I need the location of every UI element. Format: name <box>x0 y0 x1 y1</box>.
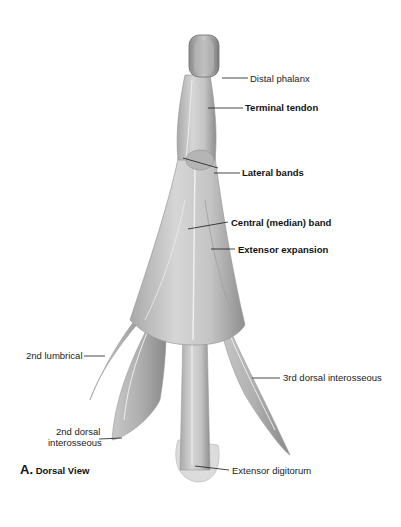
extensor-digitorum-tendon <box>180 330 210 470</box>
label-terminal-tendon: Terminal tendon <box>245 102 318 113</box>
caption-title: Dorsal View <box>36 465 90 476</box>
label-3rd-dorsal-interosseous: 3rd dorsal interosseous <box>283 372 382 383</box>
label-lateral-bands: Lateral bands <box>242 167 304 178</box>
label-2nd-dorsal-interosseous-line1: 2nd dorsal <box>56 426 100 437</box>
anatomy-figure: Distal phalanx Terminal tendon Lateral b… <box>0 0 401 527</box>
label-2nd-dorsal-interosseous-line2: interosseous <box>48 437 102 448</box>
caption-letter: A. <box>20 462 33 477</box>
label-central-band: Central (median) band <box>231 217 331 228</box>
figure-caption: A. Dorsal View <box>20 462 89 477</box>
label-distal-phalanx: Distal phalanx <box>250 73 310 84</box>
label-2nd-lumbrical: 2nd lumbrical <box>26 350 83 361</box>
middle-phalanx <box>177 75 216 160</box>
label-extensor-expansion: Extensor expansion <box>238 244 328 255</box>
label-extensor-digitorum: Extensor digitorum <box>232 465 311 476</box>
